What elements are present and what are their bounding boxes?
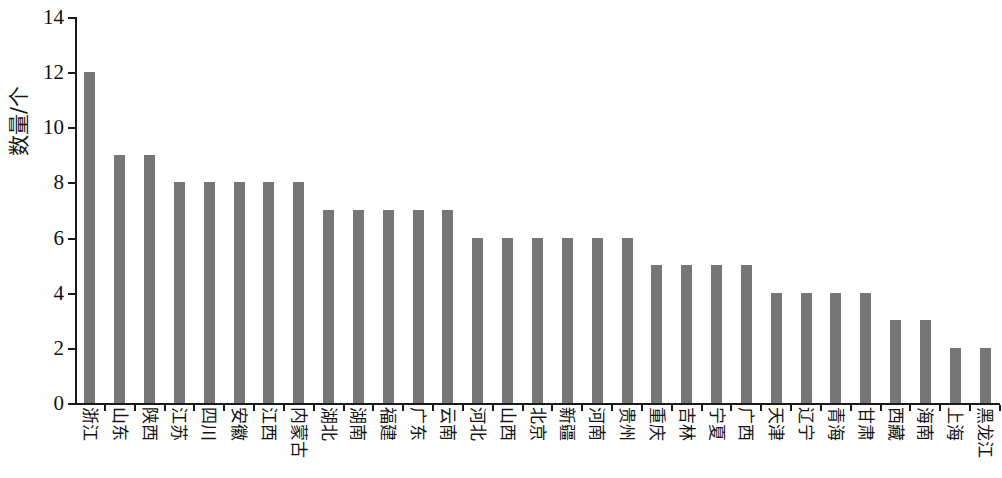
x-axis-tick-label: 上海 <box>946 407 964 477</box>
y-axis-tick-mark <box>68 238 76 240</box>
bar <box>442 210 453 403</box>
y-axis-tick-label: 8 <box>18 172 64 193</box>
bar <box>830 293 841 403</box>
x-axis-tick-label: 辽宁 <box>797 407 815 477</box>
y-axis-tick-label: 2 <box>18 338 64 359</box>
bar <box>234 182 245 403</box>
x-axis-line <box>75 403 1000 405</box>
y-axis-tick-mark <box>68 403 76 405</box>
x-axis-tick-label: 吉林 <box>678 407 696 477</box>
bar <box>562 238 573 403</box>
x-axis-tick-label: 北京 <box>529 407 547 477</box>
x-axis-tick-label: 广东 <box>409 407 427 477</box>
bar <box>532 238 543 403</box>
bar-chart: 数量/个 14121086420 浙江山东陕西江苏四川安徽江西内蒙古湖北湖南福建… <box>0 0 1002 478</box>
bar <box>801 293 812 403</box>
y-axis-tick-label: 6 <box>18 228 64 249</box>
bar <box>950 348 961 403</box>
bar <box>472 238 483 403</box>
bar <box>980 348 991 403</box>
x-axis-tick-label: 河南 <box>588 407 606 477</box>
x-axis-tick-label: 四川 <box>200 407 218 477</box>
x-axis-tick-label: 青海 <box>827 407 845 477</box>
bar <box>592 238 603 403</box>
x-axis-tick-label: 黑龙江 <box>976 407 994 477</box>
x-axis-tick-label: 重庆 <box>648 407 666 477</box>
bar <box>383 210 394 403</box>
bar <box>622 238 633 403</box>
x-axis-tick-label: 福建 <box>379 407 397 477</box>
bar <box>651 265 662 403</box>
x-axis-tick-label: 山东 <box>111 407 129 477</box>
bar <box>84 72 95 403</box>
y-axis-tick-mark <box>68 348 76 350</box>
y-axis-tick-label: 10 <box>18 117 64 138</box>
x-axis-tick-label: 江西 <box>260 407 278 477</box>
y-axis-tick-mark <box>68 17 76 19</box>
y-axis-tick-label: 4 <box>18 283 64 304</box>
bar <box>144 155 155 403</box>
x-axis-tick-label: 新疆 <box>558 407 576 477</box>
bar <box>502 238 513 403</box>
x-axis-tick-label: 陕西 <box>141 407 159 477</box>
bar <box>771 293 782 403</box>
bar <box>204 182 215 403</box>
x-axis-tick-label: 甘肃 <box>857 407 875 477</box>
y-axis-tick-mark <box>68 182 76 184</box>
x-axis-tick-label: 河北 <box>469 407 487 477</box>
x-axis-tick-label: 浙江 <box>81 407 99 477</box>
bar <box>174 182 185 403</box>
bar <box>293 182 304 403</box>
bar <box>353 210 364 403</box>
y-axis-tick-label: 14 <box>18 7 64 28</box>
y-axis-tick-mark <box>68 72 76 74</box>
x-axis-tick-label: 海南 <box>916 407 934 477</box>
x-axis-tick-label: 西藏 <box>887 407 905 477</box>
x-axis-tick-labels: 浙江山东陕西江苏四川安徽江西内蒙古湖北湖南福建广东云南河北山西北京新疆河南贵州重… <box>75 407 1000 478</box>
x-axis-tick-label: 山西 <box>499 407 517 477</box>
bar <box>741 265 752 403</box>
bar <box>114 155 125 403</box>
x-axis-tick-label: 天津 <box>767 407 785 477</box>
x-axis-tick-label: 内蒙古 <box>290 407 308 477</box>
x-axis-tick-label: 宁夏 <box>708 407 726 477</box>
plot-area <box>75 17 1000 405</box>
bar <box>890 320 901 403</box>
x-axis-tick-label: 江苏 <box>170 407 188 477</box>
bar <box>920 320 931 403</box>
bar <box>323 210 334 403</box>
y-axis-line <box>75 17 77 405</box>
x-axis-tick-label: 贵州 <box>618 407 636 477</box>
bar <box>263 182 274 403</box>
y-axis-tick-mark <box>68 127 76 129</box>
x-axis-tick-label: 云南 <box>439 407 457 477</box>
x-axis-tick-label: 广西 <box>737 407 755 477</box>
bar <box>681 265 692 403</box>
bar <box>413 210 424 403</box>
bar <box>711 265 722 403</box>
x-axis-tick-label: 安徽 <box>230 407 248 477</box>
y-axis-tick-label: 0 <box>18 393 64 414</box>
y-axis-tick-labels: 14121086420 <box>18 0 64 478</box>
y-axis-tick-label: 12 <box>18 62 64 83</box>
bar <box>860 293 871 403</box>
y-axis-tick-mark <box>68 293 76 295</box>
x-axis-tick-label: 湖南 <box>349 407 367 477</box>
x-axis-tick-label: 湖北 <box>320 407 338 477</box>
